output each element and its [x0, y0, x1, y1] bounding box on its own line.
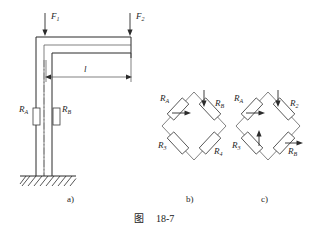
figure-canvas: F1 F2: [0, 0, 311, 238]
force-label-F1: F1: [50, 11, 60, 22]
bridge-c-label-RA: RA: [233, 93, 244, 104]
force-arrow-F1: [42, 13, 47, 36]
bridge-c-arm-top-left: [241, 98, 263, 120]
part-a-group: F1 F2: [18, 11, 145, 186]
strain-gauge-RA-body: [33, 108, 40, 125]
beam-lower-edge: [52, 53, 131, 176]
part-c-group: RA R2 R3: [231, 90, 303, 160]
part-b-group: RA RB R3 R4: [157, 90, 226, 160]
bridge-b-arm-top-left: [167, 98, 189, 120]
bridge-b-label-R3: R3: [157, 140, 167, 151]
bridge-b-arm-bottom-left: [167, 132, 189, 154]
strain-gauge-label-RA: RA: [18, 104, 29, 115]
part-label-b: b): [186, 194, 194, 204]
dimension-label-l: l: [84, 64, 87, 74]
bridge-c-label-R3: R3: [231, 140, 241, 151]
force-arrow-F2: [127, 13, 132, 36]
part-label-c: c): [261, 194, 268, 204]
bridge-b-label-RB: RB: [214, 98, 225, 109]
bridge-b-label-RA: RA: [159, 93, 170, 104]
bridge-c-label-RB: RB: [287, 146, 298, 157]
caption-label: 图: [134, 213, 144, 224]
bridge-b-label-R4: R4: [213, 146, 223, 157]
caption-number: 18-7: [156, 213, 174, 224]
figure-18-7: F1 F2: [0, 0, 311, 238]
strain-gauge-RB-body: [53, 108, 60, 125]
fixed-support-hatching: [20, 176, 76, 186]
dimension-line-l: [45, 58, 132, 82]
bridge-c-label-R2: R2: [289, 98, 299, 109]
beam-outer-contour: [36, 37, 131, 176]
force-label-F2: F2: [135, 11, 145, 22]
part-label-a: a): [67, 194, 74, 204]
strain-gauge-label-RB: RB: [61, 104, 72, 115]
